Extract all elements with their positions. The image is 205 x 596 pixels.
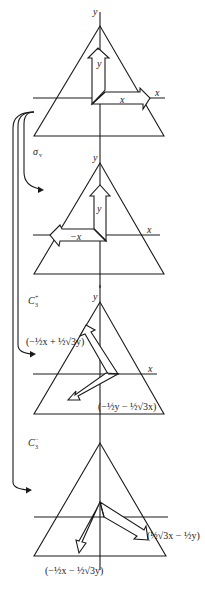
c3plus-subscript: 3 [35,302,38,308]
lower-left-arrow-label: (−½y − ½√3x) [98,401,156,413]
c3plus-superscript: + [35,294,39,300]
upper-left-arrow-label: (−½x + ½√3y) [26,336,84,348]
panel-c3-minus: C − 3 (½√3x − ½y) (−½x − ½√3y) [28,430,200,577]
y-arrow-label: y [96,203,102,214]
sigma-v-arrowhead [38,187,44,194]
panel-c3-plus: y x C + 3 (−½x + ½√3y) (−½y − ½√3x) [26,285,164,430]
x-axis-label: x [146,224,152,235]
y-axis-label: y [92,152,98,163]
lower-left-arrow [68,373,118,400]
x-axis-label: x [147,363,153,374]
upper-left-arrow [80,325,118,374]
y-axis-label: y [92,6,98,17]
c3minus-label: C [28,437,35,448]
lower-right-arrow-label: (½√3x − ½y) [147,530,200,542]
symmetry-diagram: y x y x y x σ v y −x y x C + 3 [0,0,205,596]
c3plus-arrow-line [18,112,34,354]
y-axis-label: y [92,291,98,302]
lower-left-arrow [76,502,100,553]
c3minus-arrowhead [26,487,32,494]
sigma-v-subscript: v [39,152,42,158]
y-arrow-label: y [96,58,102,69]
panel-identity: y x y x [33,6,165,148]
x-arrow-label: x [119,94,125,105]
c3minus-subscript: 3 [35,444,38,450]
panel-sigma-v: y x σ v y −x [33,146,164,288]
c3plus-label: C [28,295,35,306]
c3plus-arrowhead [30,351,36,358]
lower-right-arrow [100,502,148,540]
c3minus-superscript: − [35,436,39,442]
x-axis-label: x [154,87,160,98]
lower-left-arrow-label: (−½x − ½√3y) [45,565,103,577]
minus-x-arrow-label: −x [70,231,82,242]
